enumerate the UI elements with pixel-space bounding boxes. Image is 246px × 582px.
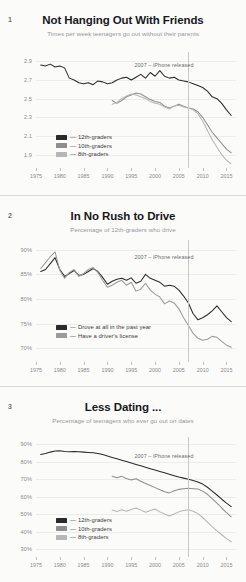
legend-swatch [56, 518, 67, 523]
x-axis-label: 1980 [54, 173, 66, 179]
legend-swatch [56, 135, 67, 140]
series-line [112, 94, 231, 164]
plot-area-1: 2.92.72.52.32.11.92007 – iPhone released [0, 52, 246, 164]
legend-label: 10th-graders [78, 526, 112, 532]
series-line [41, 258, 231, 322]
y-axis-label: 50% [21, 511, 33, 517]
series-line [41, 64, 231, 115]
legend-dash: — [70, 324, 76, 330]
y-axis-label: 40% [21, 529, 33, 535]
x-axis: 197519801985199019952000200520102015 [36, 168, 236, 184]
chart-panel-1: 1 Not Hanging Out With Friends Times per… [0, 0, 246, 195]
x-axis-tick [179, 168, 180, 171]
chart-legend: —12th-graders—10th-graders—8th-graders [56, 134, 112, 157]
legend-label: Have a driver's license [78, 333, 138, 339]
x-axis-tick [60, 362, 61, 365]
y-axis-label: 70% [21, 476, 33, 482]
legend-item[interactable]: —Have a driver's license [56, 333, 151, 339]
y-axis-label: 70% [21, 345, 33, 351]
x-axis-tick [84, 557, 85, 560]
x-axis-label: 1995 [125, 173, 137, 179]
legend-item[interactable]: —Drove at all in the past year [56, 324, 151, 330]
panel-number: 1 [8, 16, 12, 23]
x-axis-label: 2010 [197, 562, 209, 568]
x-axis-label: 2000 [149, 173, 161, 179]
legend-swatch [56, 143, 67, 148]
x-axis-tick [155, 557, 156, 560]
legend-dash: — [70, 333, 76, 339]
y-axis-label: 90% [21, 247, 33, 253]
series-line [112, 93, 231, 153]
legend-label: 10th-graders [78, 143, 112, 149]
panel-number: 3 [8, 403, 12, 410]
legend-swatch [56, 535, 67, 540]
panel-3-titles: Less Dating ... Percentage of teenagers … [0, 387, 246, 424]
x-axis-label: 1995 [125, 367, 137, 373]
legend-item[interactable]: —10th-graders [56, 143, 112, 149]
legend-item[interactable]: —8th-graders [56, 151, 112, 157]
legend-item[interactable]: —8th-graders [56, 534, 112, 540]
x-axis-tick [60, 168, 61, 171]
x-axis-label: 1990 [101, 173, 113, 179]
y-axis-label: 90% [21, 441, 33, 447]
chart-legend: —Drove at all in the past year—Have a dr… [56, 324, 151, 339]
legend-dash: — [70, 151, 76, 157]
x-axis-tick [131, 168, 132, 171]
x-axis-tick [36, 168, 37, 171]
x-axis-tick [179, 362, 180, 365]
x-axis-tick [107, 168, 108, 171]
legend-item[interactable]: —12th-graders [56, 134, 112, 140]
chart-subtitle: Percentage of 12th-graders who drive [0, 226, 246, 233]
legend-label: Drove at all in the past year [78, 324, 151, 330]
x-axis-tick [155, 362, 156, 365]
x-axis-label: 1985 [78, 173, 90, 179]
panel-2-titles: In No Rush to Drive Percentage of 12th-g… [0, 196, 246, 233]
page-title: Not Hanging Out With Friends [0, 14, 246, 27]
x-axis-label: 2005 [173, 367, 185, 373]
chart-subtitle: Times per week teenagers go out without … [0, 30, 246, 37]
x-axis-tick [203, 168, 204, 171]
panel-number: 2 [8, 212, 12, 219]
y-axis-label: 2.7 [24, 77, 32, 83]
x-axis-label: 1990 [101, 562, 113, 568]
x-axis-label: 2010 [197, 173, 209, 179]
x-axis-label: 1985 [78, 562, 90, 568]
legend-dash: — [70, 134, 76, 140]
x-axis-label: 1985 [78, 367, 90, 373]
x-axis-label: 1990 [101, 367, 113, 373]
x-axis-tick [131, 362, 132, 365]
y-axis-label: 30% [21, 546, 33, 552]
x-axis-label: 2015 [220, 173, 232, 179]
annotation-label: 2007 – iPhone released [134, 453, 193, 459]
annotation-label: 2007 – iPhone released [134, 62, 193, 68]
legend-swatch [56, 526, 67, 531]
legend-label: 12th-graders [78, 134, 112, 140]
legend-label: 12th-graders [78, 517, 112, 523]
charts-stack: 1 Not Hanging Out With Friends Times per… [0, 0, 246, 582]
x-axis-label: 2000 [149, 367, 161, 373]
legend-swatch [56, 152, 67, 157]
legend-dash: — [70, 534, 76, 540]
x-axis-label: 2000 [149, 562, 161, 568]
x-axis-tick [36, 557, 37, 560]
page-title: In No Rush to Drive [0, 210, 246, 223]
x-axis-tick [36, 362, 37, 365]
x-axis: 197519801985199019952000200520102015 [36, 557, 236, 573]
x-axis-label: 1975 [30, 367, 42, 373]
x-axis-tick [203, 362, 204, 365]
x-axis-tick [226, 557, 227, 560]
y-axis-label: 75% [21, 321, 33, 327]
series-line [112, 508, 231, 542]
x-axis-label: 1995 [125, 562, 137, 568]
y-axis-label: 2.9 [24, 58, 32, 64]
x-axis-label: 2005 [173, 562, 185, 568]
legend-label: 8th-graders [78, 151, 109, 157]
x-axis-label: 1980 [54, 562, 66, 568]
iphone-release-marker [188, 52, 189, 168]
x-axis-label: 2010 [197, 367, 209, 373]
x-axis-label: 1975 [30, 562, 42, 568]
legend-item[interactable]: —10th-graders [56, 526, 112, 532]
series-line [112, 476, 231, 516]
legend-item[interactable]: —12th-graders [56, 517, 112, 523]
x-axis-label: 1980 [54, 367, 66, 373]
